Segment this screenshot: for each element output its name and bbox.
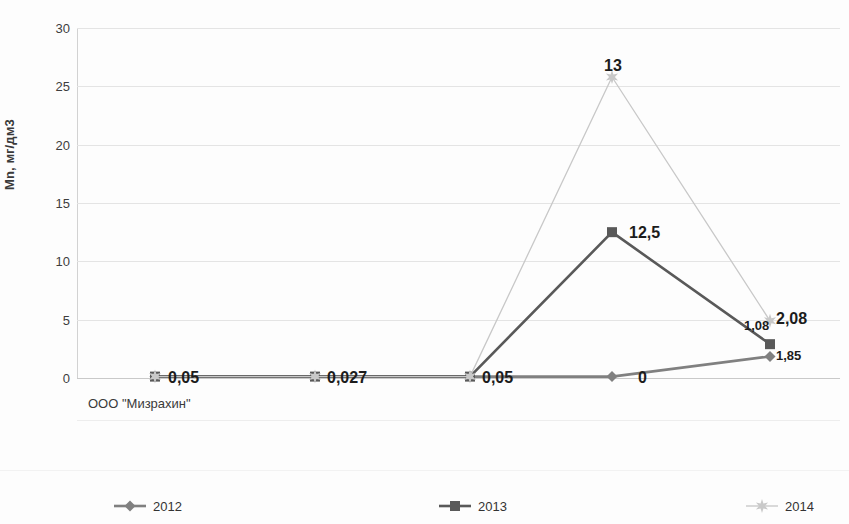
series-line-2013 [155,232,770,376]
data-point-label: 2,08 [776,310,807,328]
diamond-marker [125,501,136,512]
y-tick-label: 0 [30,371,70,386]
data-point-label: 12,5 [629,224,660,242]
y-tick-label: 30 [30,21,70,36]
y-tick-label: 5 [30,312,70,327]
legend-label: 2013 [478,499,507,514]
x-axis-category-label: ООО "Мизрахин" [88,396,191,411]
y-axis-title: Mn, мг/дм3 [2,50,17,190]
star-legend-icon [745,497,779,515]
diamond-marker [607,371,618,382]
plot-area [77,28,840,378]
chart-container: Mn, мг/дм3 051015202530 0,050,0270,05013… [0,0,849,524]
y-tick-label: 15 [30,196,70,211]
square-legend-icon [438,497,472,515]
data-point-label: 0 [638,369,647,387]
series-2013 [150,227,775,381]
data-point-label: 1,08 [744,318,769,333]
data-point-label: 0,05 [482,369,513,387]
series-line-2014 [155,77,770,377]
diamond-legend-icon [113,497,147,515]
legend-divider [0,470,849,471]
x-axis-line [77,420,840,421]
y-axis-tick-labels: 051015202530 [28,28,70,378]
legend-label: 2014 [785,499,814,514]
chart-legend: 201220132014 [0,492,849,524]
legend-item-2013[interactable]: 2013 [438,492,507,520]
y-tick-label: 20 [30,137,70,152]
square-marker [765,339,775,349]
data-point-label: 1,85 [776,348,801,363]
y-tick-label: 10 [30,254,70,269]
square-marker [450,501,460,511]
data-point-label: 13 [604,57,622,75]
data-point-label: 0,05 [168,369,199,387]
square-marker [607,227,617,237]
legend-label: 2012 [153,499,182,514]
legend-item-2014[interactable]: 2014 [745,492,814,520]
diamond-marker [765,351,776,362]
series-line-2012 [155,356,770,376]
data-point-label: 0,027 [327,369,367,387]
series-layer [77,28,840,378]
series-2014 [149,70,776,384]
y-tick-label: 25 [30,79,70,94]
legend-item-2012[interactable]: 2012 [113,492,182,520]
